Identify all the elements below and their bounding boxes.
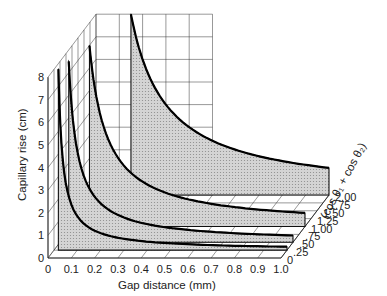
waterfall-chart: 00.10.20.30.40.50.60.70.80.91.0012345678… [0, 0, 387, 296]
x-tick: 0.6 [180, 263, 195, 275]
x-tick: 0.5 [157, 263, 172, 275]
slices [58, 14, 329, 250]
x-tick: 0.1 [64, 263, 79, 275]
x-tick: 0.7 [203, 263, 218, 275]
y-tick: 4 [38, 162, 44, 174]
x-tick: 0 [45, 263, 51, 275]
y-tick: 7 [38, 94, 44, 106]
y-tick: 3 [38, 184, 44, 196]
x-tick: 0.3 [110, 263, 125, 275]
x-tick: 0.9 [250, 263, 265, 275]
x-tick: 0.8 [227, 263, 242, 275]
y-tick: 6 [38, 116, 44, 128]
x-tick: 0.2 [87, 263, 102, 275]
x-axis-label: Gap distance (mm) [118, 279, 216, 291]
y-tick: 1 [38, 229, 44, 241]
y-tick: 5 [38, 139, 44, 151]
x-tick: 0.4 [134, 263, 149, 275]
y-tick: 8 [38, 71, 44, 83]
slice-2 [131, 14, 329, 195]
y-tick: 0 [38, 252, 44, 264]
chart-container: 00.10.20.30.40.50.60.70.80.91.0012345678… [0, 0, 387, 296]
y-axis-label: Capillary rise (cm) [16, 91, 28, 201]
y-tick: 2 [38, 207, 44, 219]
